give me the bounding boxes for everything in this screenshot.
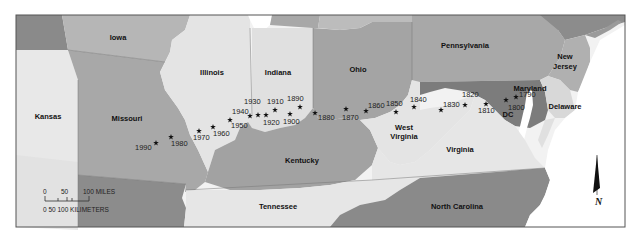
state-label-iowa: Iowa [110,33,127,42]
state-label-indiana: Indiana [265,68,292,77]
year-label: 1880 [318,113,335,122]
state-label-kentucky: Kentucky [285,156,320,165]
state-label-new-jersey-line2: Jersey [553,62,578,71]
year-label: 1970 [193,133,210,142]
year-label: 1950 [231,121,248,130]
population-center-map: Iowa Illinois Indiana Ohio Pennsylvania … [0,0,634,239]
scale-km-label: 0 50 100 KILIMETERS [43,206,109,213]
scale-miles-label: 100 MILES [83,188,116,195]
region-nebraska [16,15,68,50]
state-label-pennsylvania: Pennsylvania [441,41,490,50]
year-label: 1800 [508,103,525,112]
year-label: 1860 [368,101,385,110]
scale-miles-tick-0: 0 [43,188,47,195]
state-label-missouri: Missouri [112,114,143,123]
year-label: 1940 [232,107,249,116]
state-label-ohio: Ohio [349,65,366,74]
region-indiana [248,28,313,132]
year-label: 1830 [443,100,460,109]
year-label: 1920 [263,118,280,127]
year-label: 1900 [283,117,300,126]
year-label: 1890 [287,94,304,103]
year-label: 1980 [171,139,188,148]
year-label: 1850 [386,99,403,108]
state-label-tennessee: Tennessee [259,202,297,211]
year-label: 1910 [267,97,284,106]
year-label: 1820 [462,90,479,99]
state-label-west-virginia-line1: West [395,123,413,132]
year-label: 1790 [519,90,536,99]
state-label-north-carolina: North Carolina [431,202,484,211]
state-label-delaware: Delaware [549,102,582,111]
state-label-kansas: Kansas [35,112,62,121]
region-oklahoma [16,155,78,227]
year-label: 1840 [410,95,427,104]
state-label-west-virginia-line2: Virginia [390,132,418,141]
state-label-illinois: Illinois [200,68,224,77]
north-arrow-label: N [594,196,603,207]
year-label: 1960 [213,129,230,138]
year-label: 1990 [135,143,152,152]
year-label: 1870 [342,113,359,122]
scale-miles-tick-50: 50 [61,188,69,195]
year-label: 1930 [244,97,261,106]
state-label-new-jersey-line1: New [557,52,573,61]
state-label-virginia: Virginia [446,145,474,154]
year-label: 1810 [478,106,495,115]
